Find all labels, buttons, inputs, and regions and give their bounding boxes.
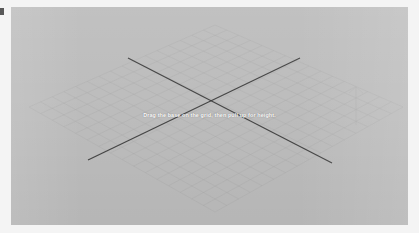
crossing-axis-lines <box>88 58 332 163</box>
isometric-grid-viewport[interactable]: Drag the base on the grid, then pull up … <box>11 7 408 225</box>
left-edge-marker <box>0 8 4 15</box>
screenshot-root: Drag the base on the grid, then pull up … <box>0 0 419 233</box>
scene-canvas[interactable] <box>11 7 408 225</box>
axis-line-secondary <box>88 58 300 160</box>
isometric-floor-grid <box>29 25 403 212</box>
